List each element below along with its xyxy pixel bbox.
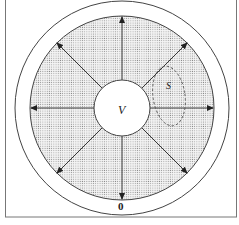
- flux-diagram: V S 0: [0, 0, 239, 225]
- label-s: S: [166, 80, 171, 91]
- label-zero: 0: [118, 200, 124, 212]
